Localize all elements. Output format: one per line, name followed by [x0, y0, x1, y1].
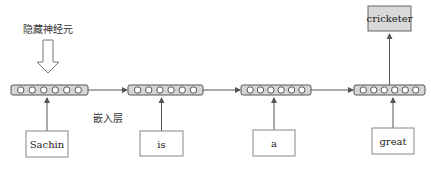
neuron-circle	[168, 87, 174, 93]
neuron-circle	[64, 87, 70, 93]
hidden-state-4	[354, 85, 425, 95]
input-word-label: great	[379, 136, 406, 147]
input-word-label: is	[157, 139, 165, 150]
neuron-circle	[18, 87, 24, 93]
neuron-circle	[179, 87, 185, 93]
rnn-diagram: 隐藏神经元 嵌入层 Sachinisagreat cricketer	[0, 0, 431, 170]
input-node-2: is	[140, 131, 183, 156]
embedding-layer-label: 嵌入层	[93, 113, 123, 124]
output-label: cricketer	[367, 13, 413, 24]
neuron-circle	[288, 87, 294, 93]
input-node-1: Sachin	[26, 131, 68, 157]
neuron-circle	[190, 87, 196, 93]
hidden-state-2	[128, 85, 203, 95]
neuron-circle	[41, 87, 47, 93]
neuron-circle	[278, 87, 284, 93]
neuron-circle	[75, 87, 81, 93]
input-node-4: great	[372, 128, 414, 154]
input-word-label: a	[271, 138, 277, 149]
neuron-circle	[402, 87, 408, 93]
input-node-3: a	[253, 130, 295, 156]
neuron-circle	[29, 87, 35, 93]
neuron-circle	[134, 87, 140, 93]
output-node: cricketer	[367, 6, 413, 31]
neuron-circle	[268, 87, 274, 93]
inputs-layer: Sachinisagreat	[26, 128, 414, 157]
neuron-circle	[299, 87, 305, 93]
hollow-down-arrow-icon	[37, 40, 59, 73]
neuron-circle	[371, 87, 377, 93]
neuron-circle	[413, 87, 419, 93]
neuron-circle	[381, 87, 387, 93]
neuron-circle	[247, 87, 253, 93]
hidden-state-1	[11, 85, 88, 95]
hidden-neurons-label: 隐藏神经元	[23, 23, 73, 35]
neuron-circle	[257, 87, 263, 93]
neuron-circle	[360, 87, 366, 93]
hidden-state-3	[241, 85, 311, 95]
neuron-circle	[146, 87, 152, 93]
neuron-circle	[52, 87, 58, 93]
neuron-circle	[392, 87, 398, 93]
input-word-label: Sachin	[30, 139, 65, 150]
neuron-circle	[157, 87, 163, 93]
